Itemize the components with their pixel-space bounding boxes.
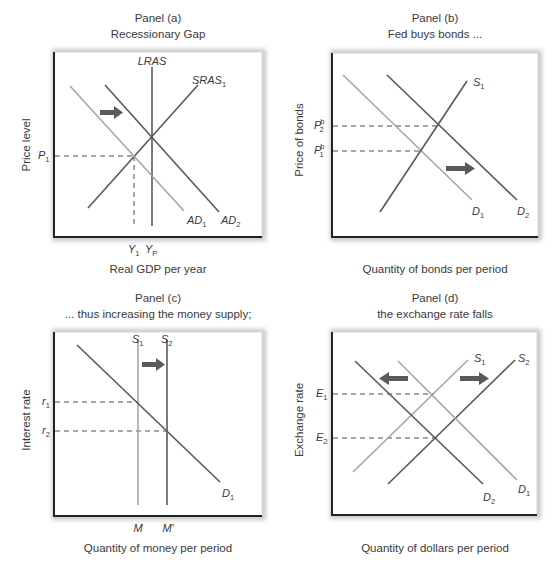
- panel-b-frame: [332, 53, 538, 237]
- panel-b-y-axis-label: Price of bonds: [293, 103, 305, 177]
- panel-c-subtitle: ... thus increasing the money supply;: [65, 308, 252, 320]
- panel-c-y-axis-label: Interest rate: [20, 389, 32, 450]
- panel-b-p1b-tick: Pb1: [314, 142, 325, 159]
- panel-a: Panel (a) Recessionary Gap Price level R…: [20, 12, 266, 275]
- panel-b-p2b-tick: Pb2: [314, 117, 325, 134]
- panel-d-e1-tick: E1: [316, 387, 328, 402]
- panel-a-title: Panel (a): [135, 12, 182, 24]
- panel-c-r2-tick: r2: [42, 424, 50, 439]
- panel-a-x-axis-label: Real GDP per year: [110, 263, 207, 275]
- panel-a-subtitle: Recessionary Gap: [111, 28, 206, 40]
- panel-d-frame: [332, 332, 537, 515]
- panel-c: Panel (c) ... thus increasing the money …: [20, 292, 266, 554]
- panel-c-m-prime-tick: M′: [162, 522, 174, 534]
- panel-d-x-axis-label: Quantity of dollars per period: [361, 542, 509, 554]
- panel-a-y-axis-label: Price level: [20, 118, 32, 171]
- panel-a-p1-tick: P1: [38, 149, 50, 164]
- panel-c-title: Panel (c): [135, 292, 181, 304]
- panel-d-e2-tick: E2: [316, 431, 328, 446]
- four-panel-monetary-policy-diagram: Panel (a) Recessionary Gap Price level R…: [0, 0, 556, 573]
- panel-d-subtitle: the exchange rate falls: [377, 308, 493, 320]
- panel-a-y1-tick: Y1: [128, 243, 140, 258]
- panel-d: Panel (d) the exchange rate falls Exchan…: [293, 292, 541, 554]
- panel-b-title: Panel (b): [412, 12, 459, 24]
- panel-a-yp-tick: YP: [145, 243, 157, 258]
- panel-d-y-axis-label: Exchange rate: [293, 383, 305, 457]
- panel-b-subtitle: Fed buys bonds ...: [388, 28, 483, 40]
- panel-b-x-axis-label: Quantity of bonds per period: [362, 263, 507, 275]
- panel-d-title: Panel (d): [412, 292, 459, 304]
- panel-c-m-tick: M: [133, 522, 143, 534]
- panel-b: Panel (b) Fed buys bonds ... Price of bo…: [293, 12, 542, 275]
- panel-c-r1-tick: r1: [42, 395, 50, 410]
- panel-a-lras-label: LRAS: [138, 55, 167, 67]
- panel-c-x-axis-label: Quantity of money per period: [84, 542, 232, 554]
